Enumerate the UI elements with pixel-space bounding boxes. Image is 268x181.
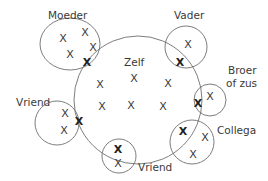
- broer-of-zus-shared-mark: X: [194, 97, 203, 110]
- vader-person-mark: X: [184, 38, 192, 51]
- collega-person-mark: X: [189, 148, 197, 161]
- vriend-left-label: Vriend: [16, 96, 50, 108]
- moeder-person-mark: X: [66, 48, 74, 61]
- vader-label: Vader: [174, 9, 205, 21]
- social-circles-diagram: XXXXXXXXXXXXXXXXXXXXXXX ZelfMoederVaderB…: [0, 0, 268, 181]
- vriend-bottom-shared-mark: X: [114, 143, 123, 156]
- zelf-person-mark: X: [164, 77, 172, 90]
- zelf-person-mark: X: [159, 100, 167, 113]
- vriend-left-shared-mark: X: [75, 115, 84, 128]
- person-marks: XXXXXXXXXXXXXXXXXXXXXXX: [59, 26, 214, 170]
- moeder-shared-mark: X: [83, 56, 92, 69]
- collega-label: Collega: [217, 124, 256, 136]
- group-labels: ZelfMoederVaderBroerof zusVriendVriendCo…: [16, 9, 257, 173]
- zelf-label: Zelf: [124, 56, 145, 68]
- zelf-person-mark: X: [127, 99, 135, 112]
- broer-of-zus-person-mark: X: [206, 90, 214, 103]
- collega-shared-mark: X: [179, 125, 188, 138]
- zelf-person-mark: X: [96, 78, 104, 91]
- vriend-left-person-mark: X: [60, 124, 68, 137]
- moeder-person-mark: X: [59, 32, 67, 45]
- vriend-left-person-mark: X: [61, 107, 69, 120]
- broer-of-zus-label-line2: of zus: [226, 77, 257, 89]
- vriend-bottom-person-mark: X: [114, 157, 122, 170]
- collega-person-mark: X: [201, 131, 209, 144]
- moeder-label: Moeder: [48, 9, 88, 21]
- moeder-person-mark: X: [89, 41, 97, 54]
- broer-of-zus-label: Broer: [228, 64, 257, 76]
- moeder-person-mark: X: [81, 26, 89, 39]
- zelf-person-mark: X: [130, 72, 138, 85]
- zelf-person-mark: X: [98, 100, 106, 113]
- vader-shared-mark: X: [176, 56, 185, 69]
- vriend-bottom-label: Vriend: [138, 161, 172, 173]
